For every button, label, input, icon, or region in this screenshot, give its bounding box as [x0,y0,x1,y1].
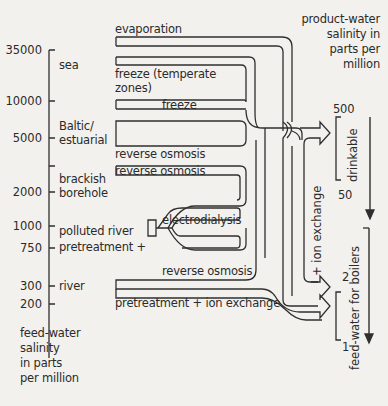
product-axis-title-4: million [290,57,380,71]
source-polluted-2: pretreatment + [59,240,146,254]
label-ro-baltic: reverse osmosis [115,147,205,161]
product-axis-title-2: salinity in [290,27,380,41]
label-ro-brackish: reverse osmosis [115,164,205,178]
tick-200: 200 [0,297,42,311]
boilers-bracket [336,292,341,340]
product-axis-title-1: product-water [290,12,380,26]
source-brackish-1: brackish [59,172,106,186]
feed-axis-title-1: feed-water [20,326,80,340]
tick-750: 750 [0,241,42,255]
feed-axis-title-3: in parts [20,356,62,370]
drinkable-label: drinkable [346,128,360,182]
feed-axis-title-4: per million [20,371,79,385]
tick-300: 300 [0,279,42,293]
tick-1000: 1000 [0,219,42,233]
tick-35000: 35000 [0,43,42,57]
drinkable-low: 50 [338,188,352,202]
source-sea: sea [59,58,79,72]
source-polluted-1: polluted river [59,224,133,238]
product-axis-title-3: parts per [290,42,380,56]
source-river: river [59,279,85,293]
label-ion-exchange: + ion exchange [310,186,324,276]
pipe-ro-baltic [116,121,246,146]
drinkable-high: 500 [333,102,354,116]
boilers-label: feed-water for boilers [348,246,362,370]
label-freeze-temperate-2: zones) [115,81,152,95]
tick-10000: 10000 [0,94,42,108]
source-brackish-2: borehole [59,186,108,200]
label-freeze-temperate-1: freeze (temperate [115,67,216,81]
label-pretreat-ion: pretreatment + ion exchange [115,296,280,310]
label-ro-river: reverse osmosis [162,264,252,278]
feed-axis-title-2: salinity [20,341,60,355]
label-evaporation: evaporation [115,22,182,36]
label-freeze: freeze [162,98,197,112]
tick-5000: 5000 [0,131,42,145]
label-electrodialysis: electrodialysis [162,213,241,227]
tick-2000: 2000 [0,185,42,199]
drinkable-bracket [336,117,341,180]
source-baltic-1: Baltic/ [59,119,94,133]
source-baltic-2: estuarial [59,133,107,147]
